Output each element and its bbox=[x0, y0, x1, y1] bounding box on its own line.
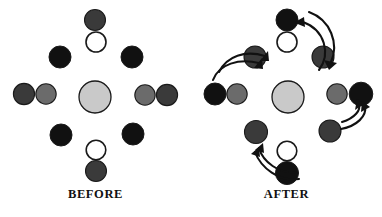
arrow-head-bottom-left-b bbox=[251, 147, 260, 157]
disk-left-inner[interactable] bbox=[36, 84, 56, 104]
disk-diag-bottom-right[interactable] bbox=[319, 120, 341, 142]
disk-bottom-outer[interactable] bbox=[86, 161, 107, 182]
panel-label-before: BEFORE bbox=[0, 186, 191, 202]
disk-top-outer[interactable] bbox=[276, 9, 298, 31]
figure-canvas: BEFORE bbox=[0, 0, 382, 217]
disk-bottom-inner[interactable] bbox=[86, 140, 106, 160]
after-disks bbox=[204, 9, 373, 185]
disk-right-outer[interactable] bbox=[156, 84, 177, 105]
disk-top-inner[interactable] bbox=[277, 32, 297, 52]
after-diagram bbox=[191, 0, 382, 217]
disk-diag-bottom-left[interactable] bbox=[50, 124, 72, 146]
panel-after: AFTER bbox=[191, 0, 382, 217]
disk-top-outer[interactable] bbox=[85, 10, 106, 31]
disk-left-outer[interactable] bbox=[204, 83, 226, 105]
disk-center[interactable] bbox=[79, 81, 111, 113]
disk-diag-bottom-left[interactable] bbox=[245, 121, 268, 144]
disk-diag-bottom-right[interactable] bbox=[122, 123, 144, 145]
disk-diag-top-right[interactable] bbox=[121, 46, 143, 68]
disk-top-inner[interactable] bbox=[86, 32, 106, 52]
disk-diag-top-left[interactable] bbox=[244, 46, 266, 68]
disk-left-inner[interactable] bbox=[227, 84, 247, 104]
disk-right-inner[interactable] bbox=[135, 85, 155, 105]
disk-center[interactable] bbox=[272, 81, 304, 113]
disk-right-inner[interactable] bbox=[327, 84, 347, 104]
before-disks bbox=[13, 10, 177, 182]
before-diagram bbox=[0, 0, 191, 217]
panel-before: BEFORE bbox=[0, 0, 191, 217]
disk-left-outer[interactable] bbox=[13, 83, 34, 104]
panel-label-after: AFTER bbox=[191, 186, 382, 202]
disk-diag-top-left[interactable] bbox=[49, 46, 71, 68]
disk-bottom-inner[interactable] bbox=[277, 141, 297, 161]
